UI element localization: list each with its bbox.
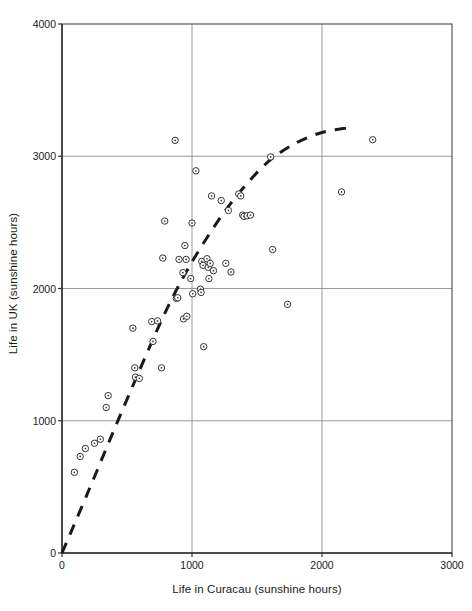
data-point [154, 318, 160, 324]
data-point [269, 246, 275, 252]
data-point [158, 365, 164, 371]
data-point [247, 212, 253, 218]
trend-line [62, 128, 348, 553]
data-point [71, 469, 77, 475]
data-point [189, 291, 195, 297]
gridlines [62, 24, 452, 553]
scatter-plot-figure: Life in UK (sunshine hours) Life in Cura… [0, 0, 472, 611]
data-point [77, 453, 83, 459]
data-point [132, 365, 138, 371]
data-point [103, 404, 109, 410]
data-point [160, 255, 166, 261]
data-point [176, 256, 182, 262]
data-point [150, 338, 156, 344]
data-point [175, 295, 181, 301]
data-point [370, 137, 376, 143]
data-point [130, 325, 136, 331]
data-point [228, 269, 234, 275]
data-point [208, 193, 214, 199]
plot-area [0, 0, 472, 611]
data-point [172, 137, 178, 143]
data-point [206, 275, 212, 281]
data-point [198, 289, 204, 295]
data-point [182, 242, 188, 248]
data-point [180, 269, 186, 275]
data-point [189, 220, 195, 226]
data-point [225, 207, 231, 213]
data-point [338, 189, 344, 195]
data-point [193, 168, 199, 174]
data-point [183, 256, 189, 262]
data-point [284, 301, 290, 307]
data-point [91, 440, 97, 446]
data-point [184, 313, 190, 319]
data-point [97, 436, 103, 442]
data-point [223, 260, 229, 266]
axis-ticks [58, 24, 452, 557]
data-point [136, 375, 142, 381]
data-point [188, 275, 194, 281]
data-point [162, 218, 168, 224]
data-point [207, 260, 213, 266]
data-point [210, 267, 216, 273]
data-point [267, 154, 273, 160]
data-point [82, 445, 88, 451]
data-point [238, 193, 244, 199]
data-point [201, 343, 207, 349]
data-points [71, 137, 376, 476]
data-point [218, 197, 224, 203]
data-point [105, 392, 111, 398]
